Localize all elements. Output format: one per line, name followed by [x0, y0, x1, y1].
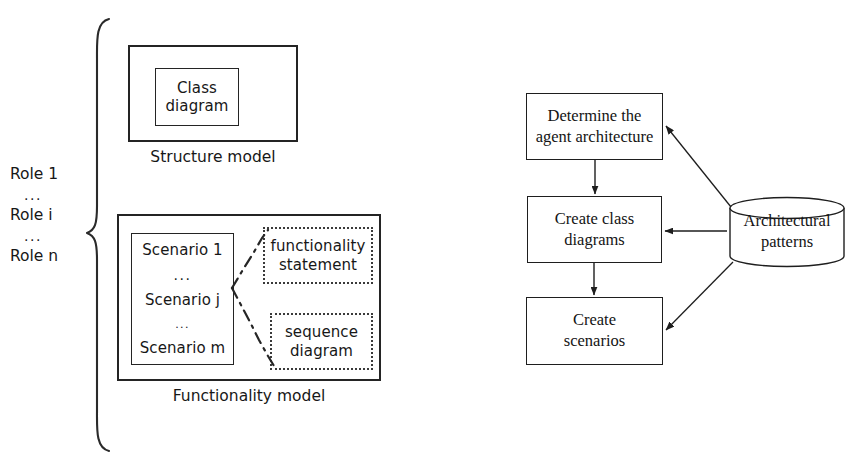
- arrow-datastore-to-step1: [666, 126, 731, 207]
- role-ellipsis-upper: ...: [24, 188, 82, 202]
- class-diagram-box: Class diagram: [155, 68, 239, 126]
- sequence-diagram-line2: diagram: [290, 342, 353, 360]
- functionality-statement-line1: functionality: [271, 237, 366, 255]
- flow-step-3-line2: scenarios: [564, 331, 625, 352]
- role-label-i: Role i: [10, 206, 82, 224]
- flow-step-1-line2: agent architecture: [536, 127, 654, 148]
- figure-canvas: Role 1 ... Role i ... Role n Class diagr…: [0, 0, 868, 468]
- flow-step-2-line2: diagrams: [564, 230, 624, 251]
- structure-model-box: Class diagram: [128, 45, 298, 142]
- flow-step-create-scenarios: Create scenarios: [526, 297, 663, 365]
- functionality-statement-box: functionality statement: [263, 227, 373, 284]
- scenario-item-m: Scenario m: [140, 339, 226, 357]
- class-diagram-line1: Class: [177, 79, 217, 97]
- role-ellipsis-lower: ...: [24, 229, 82, 243]
- cylinder-icon: [728, 196, 846, 268]
- structure-model-caption: Structure model: [128, 148, 298, 166]
- scenario-ellipsis-lower: ...: [175, 319, 190, 330]
- architectural-patterns-datastore: Architectural patterns: [728, 196, 846, 268]
- sequence-diagram-line1: sequence: [285, 323, 358, 341]
- sequence-diagram-box: sequence diagram: [270, 313, 373, 370]
- role-label-list: Role 1 ... Role i ... Role n: [10, 165, 82, 265]
- flow-step-1-line1: Determine the: [548, 106, 642, 127]
- arrow-datastore-to-step3: [666, 262, 733, 330]
- role-brace-icon: [87, 19, 109, 451]
- flow-step-2-line1: Create class: [555, 209, 634, 230]
- role-label-first: Role 1: [10, 165, 82, 183]
- functionality-model-box: Scenario 1 ... Scenario j ... Scenario m…: [117, 214, 381, 381]
- functionality-model-caption: Functionality model: [117, 387, 381, 405]
- scenario-item-j: Scenario j: [145, 291, 220, 309]
- flow-step-create-class-diagrams: Create class diagrams: [527, 196, 662, 263]
- flow-step-determine-agent-architecture: Determine the agent architecture: [526, 93, 663, 160]
- class-diagram-line2: diagram: [165, 97, 228, 115]
- scenario-list-box: Scenario 1 ... Scenario j ... Scenario m: [131, 233, 234, 365]
- scenario-ellipsis-upper: ...: [173, 268, 191, 282]
- flow-step-3-line1: Create: [573, 310, 616, 331]
- role-label-n: Role n: [10, 247, 82, 265]
- functionality-statement-line2: statement: [279, 256, 357, 274]
- scenario-item-first: Scenario 1: [142, 241, 223, 259]
